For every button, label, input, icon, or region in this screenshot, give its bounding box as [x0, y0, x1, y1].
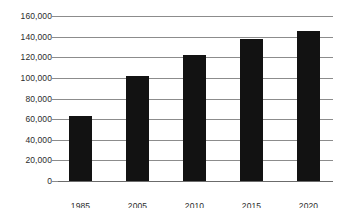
- bar-2005: [126, 76, 149, 181]
- y-axis-tick-mark: [52, 57, 58, 58]
- y-axis-tick-label: 0: [0, 177, 52, 186]
- plot-area: 1985 2005 2010 2015 2020: [58, 16, 333, 181]
- x-axis-baseline: [58, 181, 333, 182]
- gridline-160000: [58, 16, 333, 17]
- y-axis-tick-mark: [52, 119, 58, 120]
- bar-2020: [297, 31, 320, 181]
- x-axis-tick-label-2010: 2010: [168, 202, 222, 208]
- y-axis-tick-mark: [52, 78, 58, 79]
- y-axis-tick-label: 20,000: [0, 156, 52, 165]
- y-axis-tick-label: 100,000: [0, 74, 52, 83]
- y-axis-tick-label: 60,000: [0, 115, 52, 124]
- gridline-140000: [58, 37, 333, 38]
- y-axis-tick-mark: [52, 140, 58, 141]
- bar-1985: [69, 116, 92, 181]
- bar-chart-figure: 160,000 140,000 120,000 100,000 80,000 6…: [0, 0, 341, 208]
- y-axis-tick-mark: [52, 99, 58, 100]
- y-axis-tick-mark: [52, 181, 58, 182]
- y-axis-tick-label: 140,000: [0, 32, 52, 41]
- y-axis-tick-label: 120,000: [0, 53, 52, 62]
- x-axis-tick-label-2005: 2005: [111, 202, 165, 208]
- y-axis-tick-label: 80,000: [0, 94, 52, 103]
- y-axis-tick-mark: [52, 160, 58, 161]
- y-axis-tick-mark: [52, 37, 58, 38]
- x-axis-tick-label-2015: 2015: [225, 202, 279, 208]
- x-axis-tick-label-1985: 1985: [54, 202, 108, 208]
- y-axis-tick-label: 40,000: [0, 136, 52, 145]
- bar-2010: [183, 55, 206, 181]
- y-axis-tick-label: 160,000: [0, 12, 52, 21]
- bar-2015: [240, 39, 263, 181]
- x-axis-tick-label-2020: 2020: [282, 202, 336, 208]
- y-axis-tick-mark: [52, 16, 58, 17]
